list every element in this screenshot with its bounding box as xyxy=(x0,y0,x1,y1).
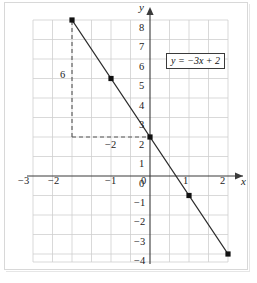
ytick-label-8: 8 xyxy=(139,22,144,33)
x-axis-label: x xyxy=(241,176,246,187)
plot-canvas xyxy=(0,0,257,283)
data-point xyxy=(69,17,74,22)
data-point xyxy=(186,193,191,198)
x-axis xyxy=(27,172,243,179)
equation-label: y = −3x + 2 xyxy=(166,53,225,69)
ytick-label-6: 6 xyxy=(139,61,144,72)
ytick-label--2: −2 xyxy=(134,216,145,227)
ytick-label-3: 3 xyxy=(139,119,144,130)
xtick-label--2: −2 xyxy=(48,175,59,186)
ytick-label-2: 2 xyxy=(139,139,144,150)
ytick-label-0: 0 xyxy=(139,178,144,189)
xtick-label--1: −1 xyxy=(105,175,116,186)
graph-figure: −3 −2 −1 0 1 2 8 7 6 5 4 3 2 1 0 −1 −2 −… xyxy=(0,0,257,283)
run-annotation: −2 xyxy=(105,139,116,150)
ytick-label-7: 7 xyxy=(139,41,144,52)
data-point xyxy=(147,134,152,139)
ytick-label-1: 1 xyxy=(139,158,144,169)
xtick-label-1: 1 xyxy=(183,175,188,186)
data-point xyxy=(108,76,113,81)
rise-annotation: 6 xyxy=(60,69,65,80)
ytick-label-5: 5 xyxy=(139,80,144,91)
data-point xyxy=(225,251,230,256)
xtick-label-2: 2 xyxy=(220,175,225,186)
ytick-label--1: −1 xyxy=(134,197,145,208)
y-axis-label: y xyxy=(139,2,144,13)
ytick-label-4: 4 xyxy=(139,100,144,111)
xtick-label--3: −3 xyxy=(18,175,29,186)
ytick-label--4: −4 xyxy=(134,255,145,266)
ytick-label--3: −3 xyxy=(134,236,145,247)
